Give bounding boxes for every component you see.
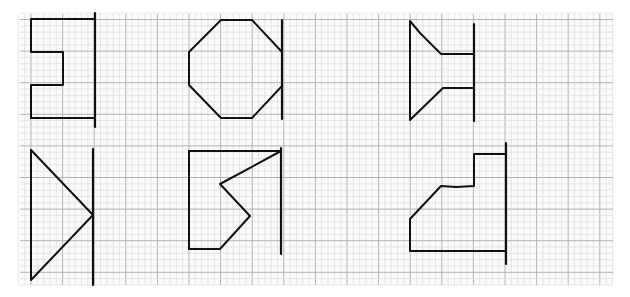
graph-paper-figure xyxy=(0,0,630,297)
graph-paper xyxy=(18,13,613,285)
